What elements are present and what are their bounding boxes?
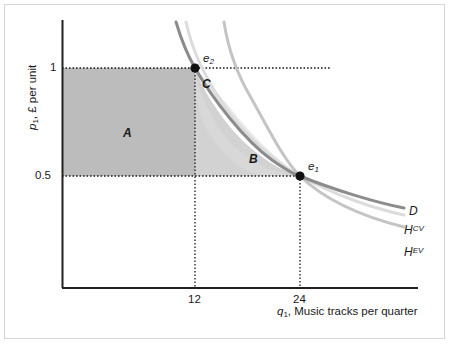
curve-label-hcv: HCV (404, 223, 424, 237)
curve-label-hev: HEV (404, 245, 423, 259)
region-a-fill (62, 68, 195, 176)
y-axis-title: p1, £ per unit (26, 65, 40, 130)
plot-area (0, 0, 450, 344)
figure-canvas: p1, £ per unit q1, Music tracks per quar… (0, 0, 450, 344)
point-label-e2-subscript: 2 (209, 57, 213, 66)
curve-label-hcv-superscript: CV (413, 224, 424, 233)
y-tick-label-0.5: 0.5 (35, 169, 51, 181)
curve-hcv (224, 22, 404, 227)
x-axis-title: q1, Music tracks per quarter (277, 305, 418, 319)
point-e2[interactable] (190, 63, 199, 72)
y-axis-title-var: p (26, 124, 38, 130)
curve-label-d: D (409, 204, 418, 218)
x-tick-label-12: 12 (188, 293, 201, 305)
region-label-b: B (249, 152, 258, 166)
curve-label-d-text: D (409, 204, 418, 218)
y-axis-title-rest: , £ per unit (26, 65, 38, 119)
region-label-c: C (202, 77, 211, 91)
y-tick-label-1: 1 (50, 61, 56, 73)
point-label-e1-subscript: 1 (314, 165, 318, 174)
curve-label-hev-superscript: EV (413, 246, 424, 255)
point-label-e1: e1 (308, 160, 319, 174)
y-axis-title-subscript: 1 (31, 119, 40, 123)
curve-label-hev-text: H (404, 245, 413, 259)
curve-label-hcv-text: H (404, 223, 413, 237)
region-label-a: A (123, 126, 132, 140)
point-e1[interactable] (295, 171, 304, 180)
x-tick-label-24: 24 (293, 293, 306, 305)
x-axis-title-rest: , Music tracks per quarter (288, 305, 418, 317)
point-label-e2: e2 (203, 52, 214, 66)
